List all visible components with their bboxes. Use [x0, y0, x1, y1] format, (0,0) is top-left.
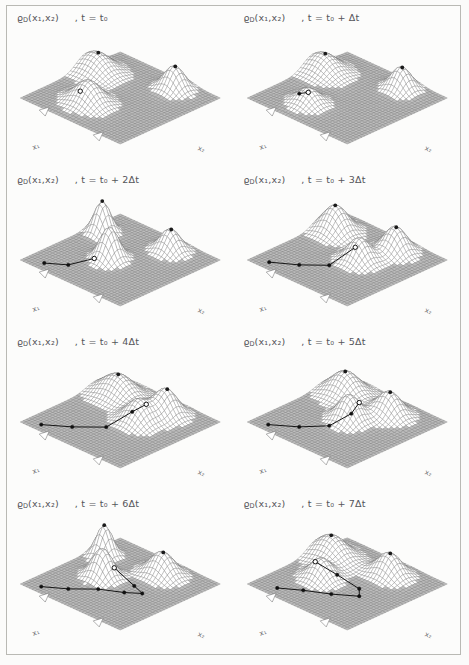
axis-label-x2-6: x₂ — [197, 630, 206, 640]
time-label-5: , t = t₀ + 5Δt — [301, 336, 365, 347]
surface-panel-5: ϱD(x₁,x₂), t = t₀ + 5Δtx₁x₂ — [234, 330, 461, 492]
surface-plot-3: x₁x₂ — [234, 186, 461, 328]
panel-title-2: ϱD(x₁,x₂), t = t₀ + 2Δt — [17, 174, 139, 186]
time-label-6: , t = t₀ + 6Δt — [75, 498, 139, 509]
surface-plot-5: x₁x₂ — [234, 348, 461, 490]
axis-label-x2-2: x₂ — [197, 306, 206, 316]
axis-label-x1-6: x₁ — [31, 628, 40, 638]
axis-label-x2-4: x₂ — [197, 468, 206, 478]
surface-panel-6: ϱD(x₁,x₂), t = t₀ + 6Δtx₁x₂ — [7, 492, 234, 654]
axis-label-x1-2: x₁ — [31, 304, 40, 314]
surface-plot-1: x₁x₂ — [234, 24, 461, 166]
panel-title-1: ϱD(x₁,x₂), t = t₀ + Δt — [244, 12, 360, 24]
surface-plot-4: x₁x₂ — [7, 348, 234, 490]
axis-label-x1-1: x₁ — [258, 142, 267, 152]
axis-label-x1-4: x₁ — [31, 466, 40, 476]
density-args-5: (x₁,x₂) — [255, 336, 286, 347]
axis-label-x2-0: x₂ — [197, 144, 206, 154]
surface-panel-2: ϱD(x₁,x₂), t = t₀ + 2Δtx₁x₂ — [7, 168, 234, 330]
panel-title-0: ϱD(x₁,x₂), t = t₀ — [17, 12, 108, 24]
surface-panel-1: ϱD(x₁,x₂), t = t₀ + Δtx₁x₂ — [234, 6, 461, 168]
axis-label-x1-0: x₁ — [31, 142, 40, 152]
density-args-3: (x₁,x₂) — [255, 174, 286, 185]
panel-title-6: ϱD(x₁,x₂), t = t₀ + 6Δt — [17, 498, 139, 510]
density-args-7: (x₁,x₂) — [255, 498, 286, 509]
axis-label-x1-5: x₁ — [258, 466, 267, 476]
surface-panel-3: ϱD(x₁,x₂), t = t₀ + 3Δtx₁x₂ — [234, 168, 461, 330]
time-label-0: , t = t₀ — [75, 12, 108, 23]
panel-title-4: ϱD(x₁,x₂), t = t₀ + 4Δt — [17, 336, 139, 348]
time-label-7: , t = t₀ + 7Δt — [301, 498, 365, 509]
time-label-3: , t = t₀ + 3Δt — [301, 174, 365, 185]
axis-label-x2-1: x₂ — [423, 144, 432, 154]
panel-title-7: ϱD(x₁,x₂), t = t₀ + 7Δt — [244, 498, 366, 510]
surface-plot-0: x₁x₂ — [7, 24, 234, 166]
surface-panel-0: ϱD(x₁,x₂), t = t₀x₁x₂ — [7, 6, 234, 168]
axis-label-x2-5: x₂ — [423, 468, 432, 478]
figure-root: ϱD(x₁,x₂), t = t₀x₁x₂ϱD(x₁,x₂), t = t₀ +… — [0, 0, 469, 665]
time-label-2: , t = t₀ + 2Δt — [75, 174, 139, 185]
density-args-6: (x₁,x₂) — [28, 498, 59, 509]
density-args-2: (x₁,x₂) — [28, 174, 59, 185]
panel-grid: ϱD(x₁,x₂), t = t₀x₁x₂ϱD(x₁,x₂), t = t₀ +… — [7, 6, 460, 654]
time-label-1: , t = t₀ + Δt — [301, 12, 359, 23]
surface-panel-4: ϱD(x₁,x₂), t = t₀ + 4Δtx₁x₂ — [7, 330, 234, 492]
panel-title-3: ϱD(x₁,x₂), t = t₀ + 3Δt — [244, 174, 366, 186]
surface-plot-6: x₁x₂ — [7, 510, 234, 652]
surface-panel-7: ϱD(x₁,x₂), t = t₀ + 7Δtx₁x₂ — [234, 492, 461, 654]
time-label-4: , t = t₀ + 4Δt — [75, 336, 139, 347]
panel-title-5: ϱD(x₁,x₂), t = t₀ + 5Δt — [244, 336, 366, 348]
density-args-0: (x₁,x₂) — [28, 12, 59, 23]
axis-label-x2-7: x₂ — [423, 630, 432, 640]
density-args-4: (x₁,x₂) — [28, 336, 59, 347]
density-args-1: (x₁,x₂) — [255, 12, 286, 23]
surface-plot-2: x₁x₂ — [7, 186, 234, 328]
axis-label-x1-7: x₁ — [258, 628, 267, 638]
surface-plot-7: x₁x₂ — [234, 510, 461, 652]
axis-label-x1-3: x₁ — [258, 304, 267, 314]
axis-label-x2-3: x₂ — [423, 306, 432, 316]
